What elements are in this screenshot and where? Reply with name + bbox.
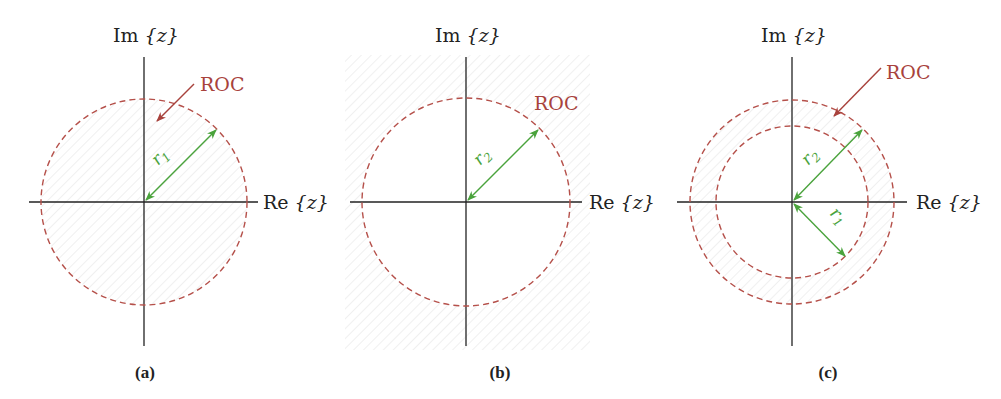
roc-label: ROC bbox=[200, 73, 244, 95]
imag-axis-label: Im {z} bbox=[435, 24, 501, 46]
real-axis-label: Re {z} bbox=[263, 191, 329, 213]
roc-label: ROC bbox=[534, 92, 578, 114]
imag-axis-label: Im {z} bbox=[113, 24, 179, 46]
panel-b: r2 ROC Im {z} Re {z} (b) bbox=[345, 24, 655, 382]
panel-c: r2 r1 ROC Im {z} Re {z} (c) bbox=[677, 24, 982, 382]
panel-label: (b) bbox=[490, 363, 511, 382]
roc-label: ROC bbox=[886, 61, 930, 83]
panel-label: (a) bbox=[135, 363, 155, 382]
panel-a: r1 ROC Im {z} Re {z} (a) bbox=[29, 24, 329, 382]
panel-label: (c) bbox=[819, 363, 838, 382]
real-axis-label: Re {z} bbox=[589, 191, 655, 213]
imag-axis-label: Im {z} bbox=[761, 24, 827, 46]
roc-figure: r1 ROC Im {z} Re {z} (a) r2 ROC Im {z} R… bbox=[0, 0, 1001, 399]
real-axis-label: Re {z} bbox=[916, 191, 982, 213]
roc-pointer-arrow bbox=[834, 68, 881, 116]
